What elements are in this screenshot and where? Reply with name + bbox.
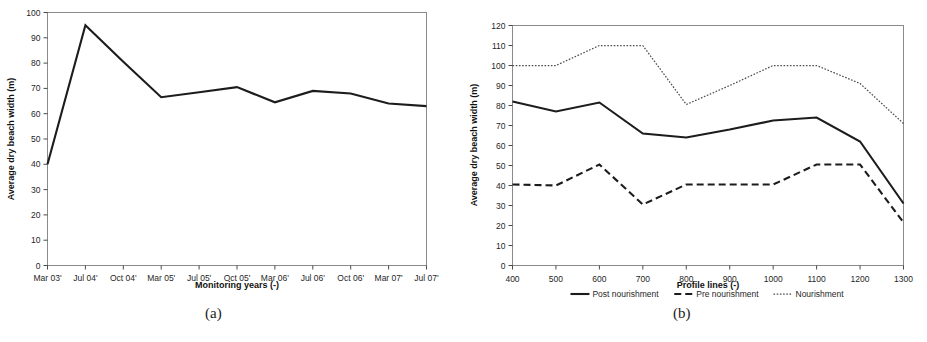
x-tick-label-b: 1100	[807, 274, 826, 284]
x-tick-label-b: 1000	[764, 274, 783, 284]
chart-a-svg: 0102030405060708090100 Mar 03'Jul 04'Oct…	[0, 0, 460, 300]
y-tick-label-b: 100	[491, 61, 505, 71]
y-tick-label-a: 20	[31, 210, 41, 220]
series-line-nourishment	[513, 46, 904, 124]
x-tick-label-b: 1200	[851, 274, 870, 284]
chart-b-svg: 0102030405060708090100110120 40050060070…	[460, 0, 927, 305]
y-tick-label-b: 40	[496, 181, 506, 191]
x-tick-label-b: 600	[592, 274, 606, 284]
series-line-a	[48, 25, 427, 164]
x-tick-label-b: 500	[549, 274, 563, 284]
x-tick-label-a: Mar 05'	[147, 273, 175, 283]
y-tick-label-a: 90	[31, 33, 41, 43]
y-tick-label-b: 60	[496, 141, 506, 151]
y-axis-a: 0102030405060708090100	[26, 8, 47, 271]
figure-container: 0102030405060708090100 Mar 03'Jul 04'Oct…	[0, 0, 927, 342]
y-tick-label-b: 90	[496, 81, 506, 91]
y-tick-label-b: 120	[491, 21, 505, 31]
y-axis-b: 0102030405060708090100110120	[491, 21, 512, 271]
x-tick-label-b: 400	[505, 274, 519, 284]
y-tick-label-a: 100	[26, 8, 40, 18]
subfigure-label-b: (b)	[673, 305, 691, 322]
y-axis-title-b: Average dry beach width (m)	[469, 84, 479, 207]
y-tick-label-a: 60	[31, 109, 41, 119]
chart-panel-a: 0102030405060708090100 Mar 03'Jul 04'Oct…	[0, 0, 460, 300]
y-tick-label-a: 0	[36, 261, 41, 271]
x-tick-label-a: Mar 03'	[33, 273, 61, 283]
y-tick-label-a: 40	[31, 159, 41, 169]
y-tick-label-b: 0	[501, 261, 506, 271]
subfigure-label-a: (a)	[205, 305, 222, 322]
y-tick-label-b: 70	[496, 121, 506, 131]
x-tick-label-a: Jul 07'	[414, 273, 439, 283]
x-axis-title-a: Monitoring years (-)	[195, 280, 279, 290]
y-tick-label-b: 10	[496, 241, 506, 251]
legend-label: Post nourishment	[592, 289, 659, 299]
y-tick-label-b: 30	[496, 201, 506, 211]
y-axis-title-a: Average dry beach width (m)	[6, 78, 16, 201]
y-tick-label-a: 30	[31, 185, 41, 195]
plot-area-a	[48, 13, 427, 266]
series-line-pre-nourishment	[513, 165, 904, 223]
series-line-post-nourishment	[513, 102, 904, 204]
y-tick-label-a: 10	[31, 235, 41, 245]
y-tick-label-a: 50	[31, 134, 41, 144]
y-tick-label-b: 50	[496, 161, 506, 171]
legend-label: Nourishment	[796, 289, 845, 299]
x-tick-label-a: Mar 07'	[375, 273, 403, 283]
x-tick-label-a: Jul 06'	[301, 273, 326, 283]
x-tick-label-a: Jul 04'	[73, 273, 98, 283]
y-tick-label-a: 70	[31, 83, 41, 93]
x-tick-label-a: Oct 06'	[337, 273, 364, 283]
y-tick-label-b: 110	[492, 41, 506, 51]
x-tick-label-b: 1300	[894, 274, 913, 284]
y-tick-label-b: 20	[496, 221, 506, 231]
x-tick-label-a: Oct 04'	[110, 273, 137, 283]
legend-b: Post nourishmentPre nourishmentNourishme…	[570, 289, 844, 299]
x-tick-label-b: 700	[636, 274, 650, 284]
legend-label: Pre nourishment	[696, 289, 759, 299]
chart-panel-b: 0102030405060708090100110120 40050060070…	[460, 0, 927, 305]
plot-area-b	[513, 26, 904, 266]
y-tick-label-b: 80	[496, 101, 506, 111]
figure-caption	[0, 333, 927, 342]
y-tick-label-a: 80	[31, 58, 41, 68]
